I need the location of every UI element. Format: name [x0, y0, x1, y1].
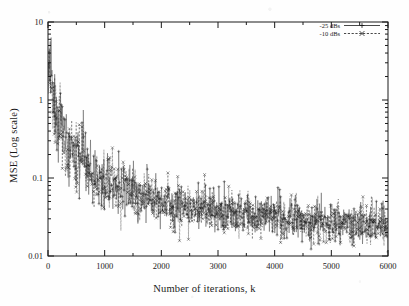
y-tick-label: 10: [8, 17, 43, 27]
x-tick-label: 5000: [309, 261, 353, 271]
figure-canvas: 0.01 0.1 1 10 0 1000 2000 3000 4000 5000…: [0, 0, 409, 306]
x-tick-label: 4000: [253, 261, 297, 271]
y-axis-title: MSE (Log scale): [8, 81, 19, 211]
x-axis-title: Number of iterations, k: [0, 283, 409, 294]
data-series-layer: [47, 38, 390, 254]
legend-sample-marks: [344, 23, 380, 36]
x-tick-label: 2000: [139, 261, 183, 271]
legend-entry-label-1: -25 dBs: [292, 22, 340, 29]
x-tick-label: 6000: [366, 261, 409, 271]
x-tick-label: 1000: [83, 261, 127, 271]
x-tick-label: 0: [26, 261, 70, 271]
x-tick-label: 3000: [196, 261, 240, 271]
legend-entry-label-2: -10 dBs: [292, 30, 340, 37]
y-tick-label: 0.01: [8, 251, 43, 261]
